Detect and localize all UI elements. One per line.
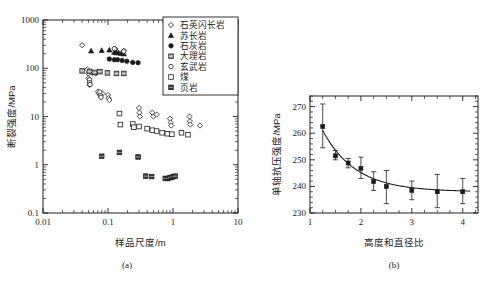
panel-a-point-5 [150,128,155,133]
panel-b-yticklabel: 270 [293,102,307,112]
legend-marker-4 [169,64,173,68]
legend-label-2: 石灰岩 [180,40,207,51]
panel-a-xticklabel: 0.1 [102,217,113,227]
panel-a-point-4 [99,95,103,99]
panel-b-point-0 [321,125,325,129]
legend-label-1: 苏长岩 [180,30,207,41]
panel-a-point-4 [112,46,116,50]
legend-label-3: 大理岩 [180,50,207,61]
panel-a-xticklabel: 1 [171,217,176,227]
panel-a-caption: (a) [122,260,132,270]
legend-label-5: 煤 [180,71,189,82]
panel-b-caption: (b) [389,260,400,270]
panel-b-ylabel: 单轴抗压强度/MPa [271,113,282,196]
panel-a-xticklabel: 0.01 [35,217,51,227]
panel-a-point-2 [115,57,120,62]
panel-b-point-2 [346,161,350,165]
panel-b-xticklabel: 3 [410,217,415,227]
panel-a-yticklabel: 100 [26,63,40,73]
panel-b-xticklabel: 1 [308,217,313,227]
panel-a-point-5 [186,132,191,137]
panel-a-yticklabel: 1000 [21,15,40,25]
panel-b-point-5 [384,184,388,188]
panel-a-point-2 [107,57,112,62]
panel-b-yticklabel: 230 [293,208,307,218]
figure-container: 0.010.111010001001010.1断裂强度/MPa样品尺度/m(a)… [0,0,493,284]
panel-b-xticklabel: 4 [460,217,465,227]
panel-b-point-3 [359,166,363,170]
panel-b-point-8 [461,190,465,194]
panel-b-yticklabel: 240 [293,181,307,191]
panel-a-point-2 [125,59,130,64]
panel-a-ylabel: 断裂强度/MPa [6,85,17,148]
panel-a-point-5 [137,124,142,129]
panel-a-point-5 [170,132,175,137]
panel-a-point-5 [165,131,170,136]
panel-b-yticklabel: 250 [293,155,307,165]
panel-a-point-2 [130,60,135,65]
panel-a-point-5 [154,129,159,134]
panel-a-xlabel: 样品尺度/m [115,237,166,248]
panel-a-point-5 [118,122,123,127]
panel-a-yticklabel: 0.1 [28,208,39,218]
panel-a-point-2 [136,60,141,65]
panel-a-xticklabel: 10 [234,217,244,227]
panel-a-point-5 [117,111,122,116]
panel-a-point-5 [160,130,165,135]
panel-a-yticklabel: 10 [30,112,40,122]
panel-a-point-5 [145,126,150,131]
panel-b-point-4 [372,180,376,184]
panel-b-xticklabel: 2 [359,217,364,227]
panel-b-point-7 [435,190,439,194]
legend-label-4: 玄武岩 [180,61,207,72]
panel-b-xlabel: 高度和直径比 [364,237,424,248]
panel-a-point-4 [88,82,92,86]
legend-marker-5 [169,75,174,80]
panel-a-point-2 [120,58,125,63]
panel-a-point-4 [122,49,126,53]
panel-b-point-6 [410,188,414,192]
legend-marker-2 [169,44,174,49]
panel-a-yticklabel: 1 [35,160,40,170]
panel-a-point-5 [179,130,184,135]
panel-a-point-5 [132,125,137,130]
legend-label-6: 页岩 [180,82,198,93]
legend-label-0: 石英闪长岩 [180,19,225,30]
panel-b-point-1 [333,154,337,158]
panel-b-yticklabel: 260 [293,128,307,138]
figure-svg: 0.010.111010001001010.1断裂强度/MPa样品尺度/m(a)… [0,0,493,284]
